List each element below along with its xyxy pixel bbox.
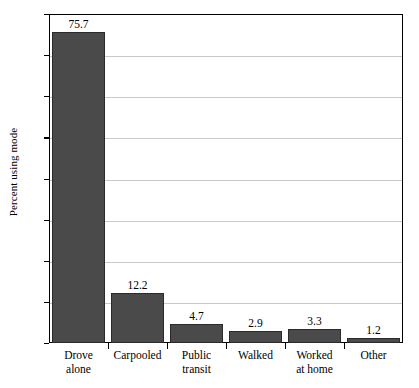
bar[interactable] [52, 32, 105, 343]
x-axis-category-line: Other [360, 349, 386, 361]
bar[interactable] [288, 329, 341, 343]
bar[interactable] [170, 324, 223, 343]
y-axis-title-text: Percent using mode [7, 127, 19, 216]
bar-value-label: 12.2 [127, 279, 147, 291]
y-axis-tick-mark [44, 343, 49, 344]
bar-value-label: 4.7 [189, 310, 203, 322]
x-axis-category-line: transit [167, 362, 226, 376]
bar-chart-figure: Percent using mode 01020304050607080 75.… [0, 0, 419, 388]
x-axis-category-label: Other [344, 348, 403, 362]
bar[interactable] [347, 338, 400, 343]
bar-group[interactable]: 2.9 [229, 14, 282, 343]
bar[interactable] [229, 331, 282, 343]
x-axis-category-label: Workedat home [285, 348, 344, 376]
bar-group[interactable]: 3.3 [288, 14, 341, 343]
x-axis-category-line: Drove [64, 349, 93, 361]
y-axis-title: Percent using mode [0, 0, 26, 343]
bar-group[interactable]: 75.7 [52, 14, 105, 343]
bar-value-label: 1.2 [366, 324, 380, 336]
bar-value-label: 2.9 [248, 317, 262, 329]
x-axis-category-line: Public [182, 349, 211, 361]
x-axis-category-line: at home [285, 362, 344, 376]
bar[interactable] [111, 293, 164, 343]
x-axis-category-line: Carpooled [114, 349, 162, 361]
x-axis-category-label: Walked [226, 348, 285, 362]
x-axis-category-line: Walked [238, 349, 273, 361]
bar-group[interactable]: 4.7 [170, 14, 223, 343]
x-axis-category-label: Publictransit [167, 348, 226, 376]
x-axis-category-label: Drovealone [49, 348, 108, 376]
bar-value-label: 75.7 [68, 18, 88, 30]
bars-layer: 75.712.24.72.93.31.2 [49, 14, 403, 343]
bar-group[interactable]: 1.2 [347, 14, 400, 343]
x-axis-category-label: Carpooled [108, 348, 167, 362]
x-axis-category-line: Worked [296, 349, 332, 361]
x-axis-category-line: alone [49, 362, 108, 376]
bar-group[interactable]: 12.2 [111, 14, 164, 343]
bar-value-label: 3.3 [307, 315, 321, 327]
